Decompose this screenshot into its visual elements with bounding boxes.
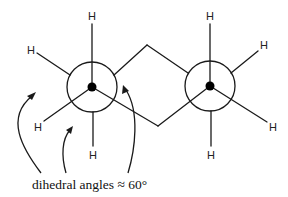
dihedral-caption: dihedral angles ≈ 60°	[32, 177, 147, 192]
left-back-bond-upper-left	[37, 53, 70, 75]
right-back-bond-upper-right	[231, 51, 258, 73]
bridge-top-right-bond	[147, 45, 188, 73]
newman-projection-diagram: H H H H H H H H	[0, 0, 288, 197]
right-front-bond-down-right	[210, 86, 267, 122]
arrowhead-2	[66, 126, 73, 134]
h-label: H	[34, 121, 42, 133]
left-front-bond-to-bridge	[92, 87, 158, 126]
right-front-carbon-dot	[206, 82, 215, 91]
left-newman-projection: H H H H	[27, 10, 158, 161]
h-label: H	[269, 121, 277, 133]
dihedral-arrow-2	[63, 130, 70, 173]
h-label: H	[89, 149, 97, 161]
h-label: H	[260, 39, 268, 51]
diagram-canvas: H H H H H H H H	[0, 0, 288, 197]
dihedral-arrow-1	[18, 96, 41, 173]
h-label: H	[27, 44, 35, 56]
right-newman-projection: H H H H	[158, 10, 277, 161]
left-back-bond-to-bridge	[114, 45, 147, 75]
dihedral-arrow-3	[126, 90, 135, 173]
h-label: H	[88, 10, 96, 22]
h-label: H	[206, 10, 214, 22]
h-label: H	[207, 149, 215, 161]
right-front-bond-to-bridge	[158, 86, 210, 126]
left-front-carbon-dot	[88, 83, 97, 92]
